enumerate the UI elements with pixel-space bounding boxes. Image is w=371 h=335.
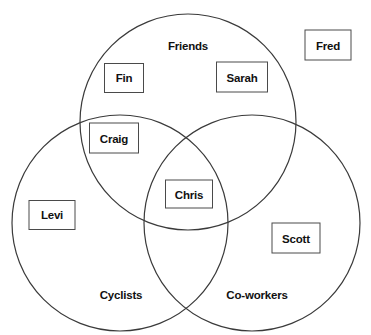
set-label-cyclists: Cyclists xyxy=(100,289,143,301)
venn-diagram-canvas: Friends Cyclists Co-workers Fin Sarah Fr… xyxy=(0,0,371,335)
member-label-chris: Chris xyxy=(175,188,203,200)
member-label-sarah: Sarah xyxy=(227,71,258,83)
member-box-craig: Craig xyxy=(89,123,139,154)
set-label-coworkers: Co-workers xyxy=(226,289,287,301)
member-label-levi: Levi xyxy=(41,209,63,221)
set-label-friends: Friends xyxy=(168,40,208,52)
member-label-fin: Fin xyxy=(116,72,133,84)
member-label-fred: Fred xyxy=(316,39,340,51)
member-box-levi: Levi xyxy=(29,200,76,230)
member-box-fin: Fin xyxy=(104,63,144,93)
member-box-chris: Chris xyxy=(165,180,213,209)
member-label-scott: Scott xyxy=(282,232,310,244)
member-box-scott: Scott xyxy=(272,223,321,254)
member-box-fred: Fred xyxy=(305,30,352,61)
member-label-craig: Craig xyxy=(100,132,128,144)
member-box-sarah: Sarah xyxy=(216,62,268,93)
